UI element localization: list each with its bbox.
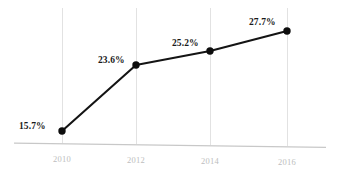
line-chart: 15.7% 23.6% 25.2% 27.7% 2010 2012 2014 2… [0, 0, 341, 180]
data-label-2016: 27.7% [249, 18, 276, 28]
data-point-marker-2014[interactable] [206, 47, 213, 54]
data-point-marker-2016[interactable] [283, 27, 290, 34]
x-tick-label-2012: 2012 [116, 156, 156, 165]
x-tick-label-2014: 2014 [190, 157, 230, 166]
data-point-marker-2010[interactable] [58, 127, 65, 134]
data-label-2012: 23.6% [98, 56, 125, 66]
data-label-2010: 15.7% [19, 122, 46, 132]
x-axis-baseline [14, 143, 326, 147]
gridlines [62, 8, 287, 146]
x-tick-label-2010: 2010 [42, 155, 82, 164]
data-label-2014: 25.2% [172, 39, 199, 49]
data-point-marker-2012[interactable] [132, 61, 139, 68]
x-tick-label-2016: 2016 [267, 158, 307, 167]
chart-canvas [0, 0, 341, 180]
